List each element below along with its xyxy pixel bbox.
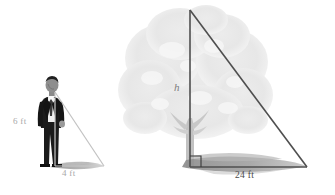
tree-icon [118,5,273,167]
tree-shadow-label: 24 ft [235,170,254,180]
man-triangle [55,92,104,166]
tree-foliage [118,5,273,139]
tree-height-label: h [174,81,180,93]
man-shadow-label: 4 ft [62,168,75,178]
standing-man-icon [38,76,65,167]
figure-canvas [0,0,335,195]
man-hypotenuse-line [55,92,104,166]
similar-triangles-figure: 6 ft 4 ft h 24 ft [0,0,335,195]
man-height-label: 6 ft [13,116,26,126]
